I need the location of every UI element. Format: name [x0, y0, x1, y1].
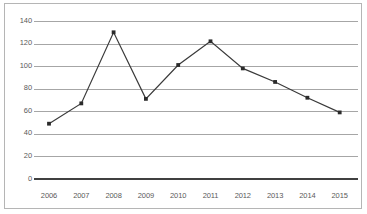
data-point-marker — [79, 101, 83, 105]
chart-frame: 020406080100120140 200620072008200920102… — [4, 3, 362, 209]
x-axis-tick-label: 2015 — [320, 192, 360, 200]
series-markers — [47, 30, 341, 125]
data-point-marker — [306, 96, 310, 100]
data-point-marker — [273, 80, 277, 84]
data-point-marker — [144, 97, 148, 101]
data-point-marker — [112, 30, 116, 34]
series-line-path — [49, 32, 340, 123]
data-point-marker — [176, 63, 180, 67]
data-point-marker — [47, 122, 51, 126]
data-point-marker — [338, 111, 342, 115]
plot-area: 020406080100120140 200620072008200920102… — [5, 4, 363, 210]
data-point-marker — [241, 67, 245, 71]
line-series — [5, 4, 363, 210]
data-point-marker — [209, 39, 213, 43]
